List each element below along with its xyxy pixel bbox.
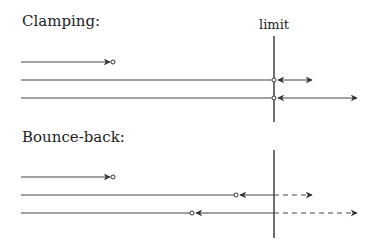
bounce-row-2 — [21, 193, 312, 197]
bounce-row-1 — [21, 175, 115, 179]
clamping-section — [21, 36, 357, 122]
bounce-back-section — [21, 150, 357, 238]
clamping-row-2 — [21, 78, 312, 82]
clamping-row-1 — [21, 60, 115, 64]
endpoint-circle — [111, 60, 115, 64]
clamping-row-3 — [21, 96, 357, 100]
endpoint-circle — [111, 175, 115, 179]
endpoint-circle — [190, 211, 194, 215]
endpoint-circle — [272, 96, 276, 100]
endpoint-circle — [234, 193, 238, 197]
bounce-row-3 — [21, 211, 357, 215]
endpoint-circle — [272, 78, 276, 82]
limit-behavior-diagram — [0, 0, 379, 252]
